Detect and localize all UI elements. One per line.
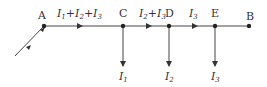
label-C: C [119,7,127,20]
arrow-AC-icon [77,23,83,29]
node-D [167,24,171,28]
branch-label-C: I1 [118,70,128,84]
branch-arrow-C-icon [120,61,126,67]
svg-text:I2+I3: I2+I3 [138,7,166,21]
label-E: E [211,7,219,20]
current-label-AC: I1+I2+I3 [56,7,102,21]
arrow-CD-icon [146,23,152,29]
label-D: D [165,7,174,20]
node-B [247,24,251,28]
node-C [121,24,125,28]
svg-text:I3: I3 [188,7,198,21]
label-A: A [37,9,47,22]
branch-label-E: I3 [210,70,220,84]
incoming-wire [15,26,44,56]
current-label-DE: I3 [188,7,198,21]
incoming-arrow-icon [26,45,31,50]
label-B: B [246,10,254,23]
current-diagram: A C D E B I1+I2+I3 I2+I3 I3 I1 I2 I3 [0,0,267,87]
current-label-CD: I2+I3 [138,7,166,21]
branch-label-D: I2 [164,70,174,84]
node-E [213,24,217,28]
svg-text:I1+I2+I3: I1+I2+I3 [56,7,102,21]
branch-arrow-E-icon [212,61,218,67]
node-A [42,24,46,28]
branch-arrow-D-icon [166,61,172,67]
arrow-DE-icon [192,23,198,29]
